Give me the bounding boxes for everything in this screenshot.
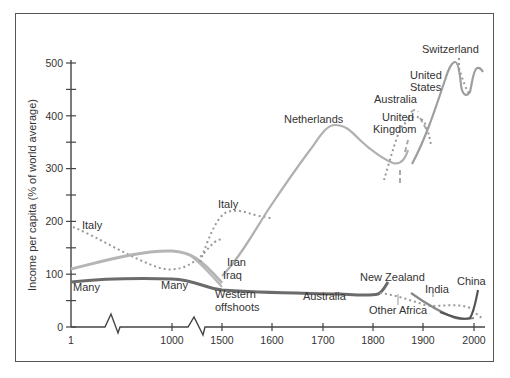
label-italy-early: Italy — [82, 219, 103, 231]
label-india: India — [425, 283, 450, 295]
y-tick-label: 200 — [45, 215, 63, 227]
label-new-zealand: New Zealand — [360, 271, 425, 283]
series-netherlands — [222, 125, 408, 276]
label-us-1: United — [410, 69, 442, 81]
label-australia-high: Australia — [374, 93, 418, 105]
series-italy-late — [200, 211, 272, 262]
label-iraq: Iraq — [223, 269, 242, 281]
label-us-2: States — [410, 81, 442, 93]
x-tick-label: 1900 — [411, 334, 435, 346]
y-tick-label: 100 — [45, 268, 63, 280]
x-tick-label: 1600 — [260, 334, 284, 346]
label-uk-2: Kingdom — [373, 123, 416, 135]
label-western-offshoots-2: offshoots — [215, 301, 260, 313]
label-switzerland: Switzerland — [422, 43, 479, 55]
y-tick-label: 400 — [45, 110, 63, 122]
x-tick-label: 1000 — [160, 334, 184, 346]
x-tick-label: 1 — [68, 334, 74, 346]
label-netherlands: Netherlands — [284, 113, 344, 125]
y-axis-label: Income per capita (% of world average) — [26, 99, 38, 291]
y-tick-label: 300 — [45, 162, 63, 174]
label-uk-1: United — [382, 111, 414, 123]
x-tick-label: 1700 — [311, 334, 335, 346]
label-many-1: Many — [73, 281, 100, 293]
label-china: China — [457, 275, 487, 287]
x-tick-label: 2000 — [462, 334, 486, 346]
y-tick-label: 0 — [57, 321, 63, 333]
label-other-africa: Other Africa — [369, 304, 428, 316]
x-tick-label: 1500 — [210, 334, 234, 346]
label-many-2: Many — [161, 279, 188, 291]
label-iran: Iran — [227, 256, 246, 268]
label-australia-low: Australia — [303, 290, 347, 302]
label-western-offshoots-1: Western — [215, 288, 256, 300]
label-italy-late: Italy — [218, 198, 239, 210]
chart-svg: 0 100 200 300 400 500 Income per capita … — [0, 0, 510, 378]
x-tick-label: 1800 — [361, 334, 385, 346]
y-tick-label: 500 — [45, 57, 63, 69]
